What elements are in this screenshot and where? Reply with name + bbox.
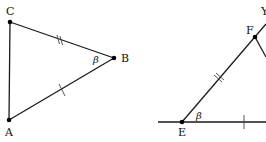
label-c: C (6, 5, 14, 18)
label-b: B (121, 52, 129, 65)
geometry-diagram: C B A β E F Y β (0, 0, 266, 142)
segment-f-down (255, 37, 266, 57)
point-a (7, 118, 12, 123)
angle-label-beta-e: β (195, 110, 202, 121)
segment-cb (10, 22, 114, 58)
label-e: E (178, 126, 186, 139)
figure-efy: E F Y β (158, 5, 266, 139)
segment-ca (9, 22, 10, 120)
point-c (8, 20, 13, 25)
point-b (112, 56, 117, 61)
segment-ef-ray (182, 24, 266, 122)
label-f: F (246, 24, 254, 37)
point-e (180, 120, 185, 125)
angle-label-beta-b: β (92, 54, 99, 65)
label-a: A (4, 126, 14, 139)
label-y: Y (260, 5, 266, 18)
triangle-abc: C B A β (4, 5, 129, 139)
